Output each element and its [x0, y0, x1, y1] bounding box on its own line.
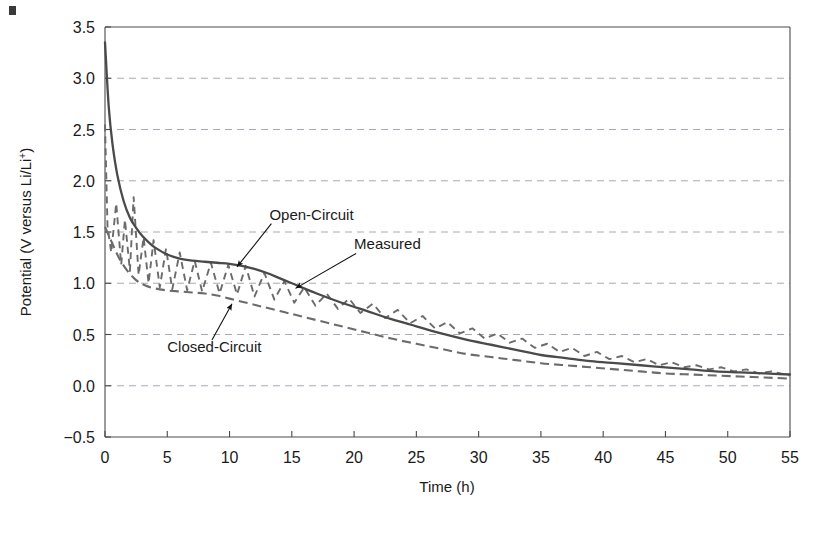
x-tick-label: 0 — [101, 449, 110, 466]
x-axis-tick-labels: 0510152025303540455055 — [101, 449, 799, 466]
x-tick-label: 15 — [283, 449, 301, 466]
potential-vs-time-chart: 0510152025303540455055 −0.50.00.51.01.52… — [0, 0, 824, 533]
y-axis-title-main: Potential (V versus Li/Li — [17, 159, 34, 317]
y-tick-label: 0.0 — [73, 378, 95, 395]
x-axis-title: Time (h) — [419, 478, 474, 495]
x-tick-label: 20 — [345, 449, 363, 466]
annotation-label-measured: Measured — [354, 235, 421, 252]
y-axis-title: Potential (V versus Li/Li+) — [17, 148, 34, 316]
y-tick-label: 3.0 — [73, 70, 95, 87]
y-tick-label: 2.5 — [73, 122, 95, 139]
annotation-label-closed-circuit: Closed-Circuit — [167, 338, 262, 355]
y-tick-label: 0.5 — [73, 327, 95, 344]
x-tick-label: 25 — [407, 449, 425, 466]
x-tick-label: 45 — [657, 449, 675, 466]
x-tick-label: 30 — [470, 449, 488, 466]
y-tick-label: 1.5 — [73, 224, 95, 241]
y-tick-label: 1.0 — [73, 275, 95, 292]
x-tick-label: 35 — [532, 449, 550, 466]
x-tick-label: 55 — [781, 449, 799, 466]
x-tick-label: 10 — [221, 449, 239, 466]
figure-container: 0510152025303540455055 −0.50.00.51.01.52… — [0, 0, 824, 533]
y-tick-label: −0.5 — [63, 429, 95, 446]
x-tick-label: 5 — [163, 449, 172, 466]
x-tick-label: 40 — [594, 449, 612, 466]
y-tick-label: 3.5 — [73, 19, 95, 36]
y-tick-label: 2.0 — [73, 173, 95, 190]
y-axis-title-suffix: ) — [17, 148, 34, 153]
x-tick-label: 50 — [719, 449, 737, 466]
y-axis-tick-labels: −0.50.00.51.01.52.02.53.03.5 — [63, 19, 95, 446]
annotation-label-open-circuit: Open-Circuit — [269, 206, 354, 223]
